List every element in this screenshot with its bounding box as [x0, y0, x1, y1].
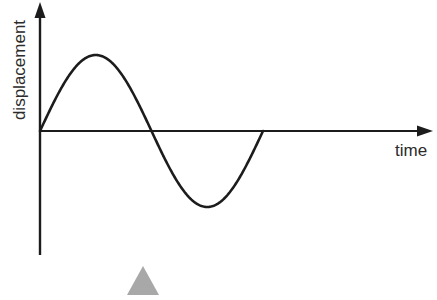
y-axis-label: displacement — [11, 20, 28, 120]
waveform-figure: displacement time — [0, 0, 437, 300]
x-axis-label: time — [395, 142, 427, 159]
plot-canvas — [0, 0, 437, 300]
y-axis-arrow-icon — [35, 2, 46, 18]
x-axis-arrow-icon — [417, 126, 433, 137]
triangle-marker — [127, 266, 159, 295]
